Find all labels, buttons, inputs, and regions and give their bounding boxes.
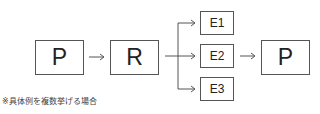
node-p-start-label: P <box>52 44 67 71</box>
node-e3-label: E3 <box>210 82 225 96</box>
node-r: R <box>110 40 159 75</box>
node-e2: E2 <box>200 44 234 68</box>
node-e3: E3 <box>200 77 234 101</box>
node-e1-label: E1 <box>210 16 225 30</box>
node-p-end-label: P <box>278 44 293 71</box>
node-p-start: P <box>35 40 84 75</box>
node-r-label: R <box>126 44 143 71</box>
footnote: ※具体例を複数挙げる場合 <box>2 95 97 106</box>
node-p-end: P <box>261 40 310 75</box>
node-e1: E1 <box>200 11 234 35</box>
node-e2-label: E2 <box>210 49 225 63</box>
